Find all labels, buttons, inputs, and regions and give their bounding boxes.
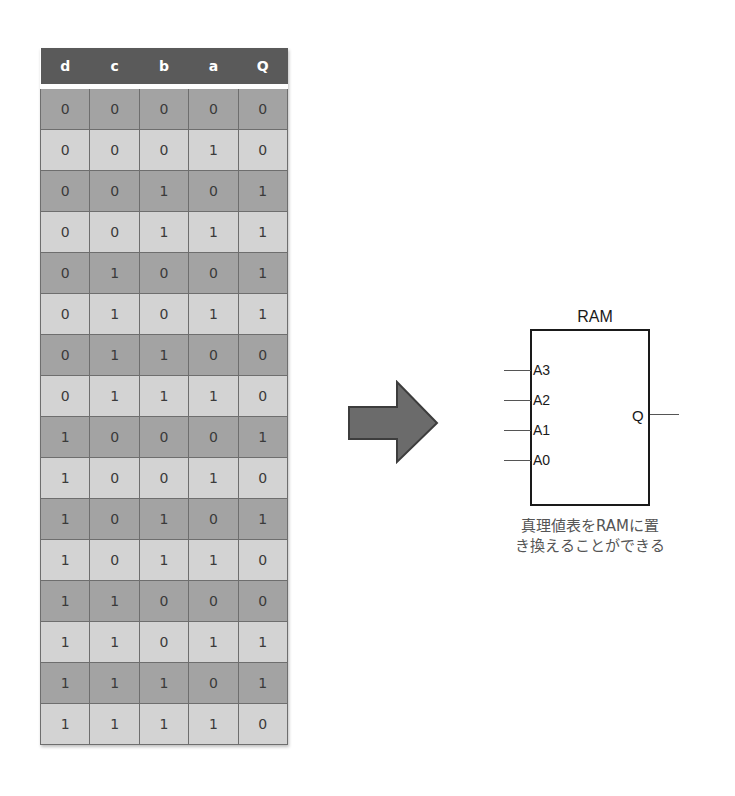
table-row: 01110: [41, 376, 288, 417]
cell: 1: [139, 212, 188, 253]
cell: 0: [41, 212, 90, 253]
cell: 0: [90, 130, 139, 171]
cell: 1: [238, 663, 287, 704]
caption-line-2: き換えることができる: [490, 536, 690, 556]
header-c: c: [90, 48, 139, 87]
cell: 1: [139, 704, 188, 745]
cell: 1: [90, 294, 139, 335]
table-row: 10101: [41, 499, 288, 540]
cell: 0: [238, 540, 287, 581]
cell: 0: [139, 622, 188, 663]
table-row: 00101: [41, 171, 288, 212]
pin-label-q: Q: [632, 407, 644, 424]
cell: 1: [41, 704, 90, 745]
cell: 0: [189, 171, 238, 212]
cell: 1: [90, 253, 139, 294]
cell: 0: [41, 171, 90, 212]
cell: 0: [238, 704, 287, 745]
cell: 0: [41, 376, 90, 417]
cell: 1: [189, 294, 238, 335]
cell: 0: [139, 130, 188, 171]
pin-line-q: [650, 414, 679, 415]
cell: 0: [139, 294, 188, 335]
cell: 1: [90, 704, 139, 745]
cell: 0: [189, 663, 238, 704]
cell: 1: [189, 130, 238, 171]
cell: 0: [189, 581, 238, 622]
caption: 真理値表をRAMに置 き換えることができる: [490, 516, 690, 556]
right-arrow-icon: [345, 380, 441, 466]
header-a: a: [189, 48, 238, 87]
cell: 0: [41, 130, 90, 171]
header-q: Q: [238, 48, 287, 87]
cell: 1: [90, 376, 139, 417]
table-row: 01001: [41, 253, 288, 294]
cell: 1: [139, 540, 188, 581]
table-row: 00111: [41, 212, 288, 253]
cell: 0: [238, 458, 287, 499]
table-row: 00000: [41, 87, 288, 130]
pin-label-a1: A1: [533, 422, 550, 438]
cell: 0: [90, 87, 139, 130]
cell: 0: [90, 212, 139, 253]
cell: 0: [139, 87, 188, 130]
cell: 1: [139, 335, 188, 376]
cell: 1: [189, 376, 238, 417]
table-row: 10110: [41, 540, 288, 581]
table-row: 01100: [41, 335, 288, 376]
table-header-row: d c b a Q: [41, 48, 288, 87]
cell: 1: [238, 171, 287, 212]
table-row: 00010: [41, 130, 288, 171]
pin-label-a0: A0: [533, 452, 550, 468]
cell: 0: [41, 253, 90, 294]
truth-table: d c b a Q 00000 00010 00101 00111 01001 …: [40, 48, 288, 745]
cell: 1: [189, 540, 238, 581]
table-row: 10001: [41, 417, 288, 458]
cell: 1: [41, 458, 90, 499]
caption-line-1: 真理値表をRAMに置: [490, 516, 690, 536]
cell: 1: [90, 581, 139, 622]
table-row: 11101: [41, 663, 288, 704]
cell: 0: [238, 376, 287, 417]
cell: 1: [189, 704, 238, 745]
cell: 0: [139, 253, 188, 294]
cell: 0: [189, 87, 238, 130]
cell: 0: [139, 458, 188, 499]
cell: 1: [90, 663, 139, 704]
cell: 0: [139, 581, 188, 622]
ram-title: RAM: [560, 308, 630, 326]
header-d: d: [41, 48, 90, 87]
pin-line-a1: [504, 430, 531, 431]
cell: 0: [189, 499, 238, 540]
cell: 1: [41, 622, 90, 663]
header-b: b: [139, 48, 188, 87]
cell: 1: [189, 458, 238, 499]
cell: 0: [41, 87, 90, 130]
cell: 0: [41, 335, 90, 376]
cell: 1: [238, 499, 287, 540]
cell: 1: [238, 417, 287, 458]
cell: 1: [238, 212, 287, 253]
cell: 1: [139, 499, 188, 540]
cell: 0: [238, 581, 287, 622]
cell: 0: [189, 253, 238, 294]
table-row: 01011: [41, 294, 288, 335]
cell: 1: [189, 622, 238, 663]
cell: 0: [238, 130, 287, 171]
cell: 0: [90, 458, 139, 499]
cell: 1: [90, 622, 139, 663]
cell: 1: [238, 622, 287, 663]
cell: 0: [238, 335, 287, 376]
cell: 1: [41, 581, 90, 622]
table-row: 11011: [41, 622, 288, 663]
cell: 1: [238, 253, 287, 294]
cell: 1: [41, 417, 90, 458]
cell: 0: [139, 417, 188, 458]
cell: 0: [90, 499, 139, 540]
cell: 0: [41, 294, 90, 335]
table-row: 11000: [41, 581, 288, 622]
pin-line-a0: [504, 460, 531, 461]
cell: 0: [90, 540, 139, 581]
cell: 0: [238, 87, 287, 130]
cell: 0: [189, 417, 238, 458]
